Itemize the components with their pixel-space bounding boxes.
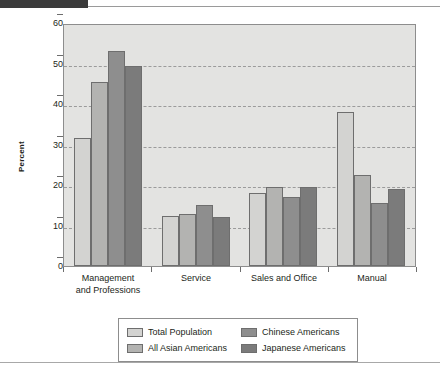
legend-item: Chinese Americans [241,327,349,337]
y-tick-label: 0 [39,261,63,271]
y-tick-mark [57,257,63,258]
bar-group [64,25,152,266]
bar [266,187,283,266]
legend-swatch [241,344,257,353]
legend-swatch [127,328,143,337]
legend-label: Japanese Americans [262,343,346,353]
x-tick-label: Service [152,272,240,306]
bar [108,51,125,266]
y-tick-label: 10 [39,221,63,231]
legend-item: Total Population [127,327,235,337]
y-tick-mark [57,55,63,56]
y-tick-mark [57,136,63,137]
y-tick-label: 40 [39,99,63,109]
plot-area [63,24,416,267]
header-block [0,0,88,8]
y-tick-mark [57,176,63,177]
bar [300,187,317,266]
y-tick-label: 60 [39,18,63,28]
bar-group [240,25,328,266]
x-tick-label: Managementand Professions [64,272,152,306]
chart-legend: Total PopulationChinese AmericansAll Asi… [118,318,358,362]
bar [354,175,371,266]
bar [162,216,179,266]
legend-label: Total Population [148,327,212,337]
bar [337,112,354,266]
y-tick-label: 20 [39,180,63,190]
y-axis-ticks: 0102030405060 [31,24,63,267]
x-tick-label: Manual [328,272,416,306]
legend-item: Japanese Americans [241,343,349,353]
bar [213,217,230,266]
legend-swatch [241,328,257,337]
bar [125,66,142,266]
legend-item: All Asian Americans [127,343,235,353]
x-axis-labels: Managementand ProfessionsServiceSales an… [64,272,416,306]
y-tick-mark [57,95,63,96]
bar [179,214,196,266]
bar-group [152,25,240,266]
legend-swatch [127,344,143,353]
bar [91,82,108,266]
chart-page: Percent 0102030405060 Managementand Prof… [0,0,440,378]
bar-group [327,25,415,266]
bar-groups [64,25,415,266]
bar [388,189,405,266]
legend-label: Chinese Americans [262,327,340,337]
bar-chart: Percent 0102030405060 Managementand Prof… [0,14,440,304]
legend-label: All Asian Americans [148,343,227,353]
bar [74,138,91,266]
header-rule [88,6,440,7]
y-tick-label: 50 [39,59,63,69]
x-tick-mark [416,267,417,272]
bar [249,193,266,266]
y-tick-mark [57,217,63,218]
y-axis-title: Percent [15,122,29,192]
footer-rule [0,362,440,363]
y-tick-mark [57,14,63,15]
x-tick-label: Sales and Office [240,272,328,306]
bar [196,205,213,266]
bar [283,197,300,266]
bar [371,203,388,266]
y-tick-label: 30 [39,140,63,150]
